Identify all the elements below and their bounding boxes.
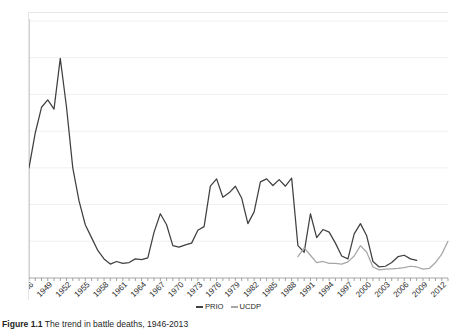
legend-label-ucdp: UCDP — [240, 302, 262, 311]
svg-text:1997: 1997 — [335, 280, 354, 299]
svg-text:1955: 1955 — [73, 280, 92, 299]
chart-legend: PRIO UCDP — [0, 302, 457, 311]
svg-text:2003: 2003 — [373, 280, 392, 299]
svg-text:1952: 1952 — [54, 280, 73, 299]
svg-text:1949: 1949 — [35, 280, 54, 299]
svg-text:2000: 2000 — [354, 280, 373, 299]
svg-text:1985: 1985 — [260, 280, 279, 299]
svg-text:1973: 1973 — [185, 280, 204, 299]
figure-caption-text: The trend in battle deaths, 1946-2013 — [45, 319, 188, 329]
legend-label-prio: PRIO — [205, 302, 224, 311]
svg-text:1976: 1976 — [204, 280, 223, 299]
svg-text:1979: 1979 — [223, 280, 242, 299]
figure-caption: Figure 1.1 The trend in battle deaths, 1… — [2, 319, 457, 329]
svg-text:1994: 1994 — [316, 280, 335, 299]
legend-item-prio[interactable]: PRIO — [196, 302, 224, 311]
figure-caption-label: Figure 1.1 — [2, 319, 43, 329]
svg-text:1967: 1967 — [148, 280, 167, 299]
legend-item-ucdp[interactable]: UCDP — [231, 302, 262, 311]
svg-text:2012: 2012 — [429, 280, 448, 299]
svg-text:1964: 1964 — [129, 280, 148, 299]
legend-swatch-prio — [196, 306, 203, 308]
svg-text:2009: 2009 — [410, 280, 429, 299]
svg-text:1958: 1958 — [91, 280, 110, 299]
chart-plot-area: 0100000200000300000400000500000600000700… — [28, 12, 448, 300]
svg-text:1991: 1991 — [298, 280, 317, 299]
svg-text:1961: 1961 — [110, 280, 129, 299]
line-chart-svg: 0100000200000300000400000500000600000700… — [29, 13, 449, 301]
svg-text:1988: 1988 — [279, 280, 298, 299]
svg-text:2006: 2006 — [392, 280, 411, 299]
legend-swatch-ucdp — [231, 306, 238, 308]
svg-text:1946: 1946 — [29, 280, 36, 299]
svg-text:1982: 1982 — [241, 280, 260, 299]
svg-text:1970: 1970 — [166, 280, 185, 299]
